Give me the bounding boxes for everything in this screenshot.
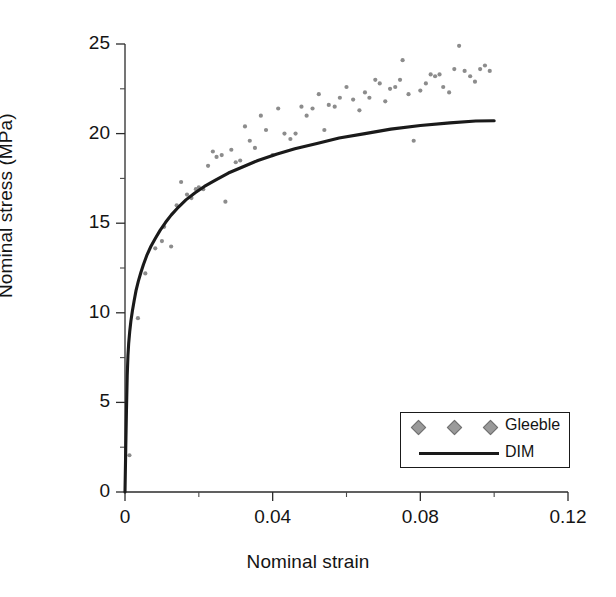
x-axis-title: Nominal strain [0,551,616,573]
legend-label-gleeble: Gleeble [505,416,560,434]
y-tick-label: 0 [50,480,110,502]
diamond-icon [411,420,427,436]
y-tick-label: 25 [50,32,110,54]
legend-label-dim: DIM [505,443,534,461]
chart-legend: Gleeble DIM [400,412,570,468]
stress-strain-chart: Nominal stress (MPa) Nominal strain 0510… [0,0,616,597]
x-tick-label: 0.12 [523,506,613,528]
line-icon [419,452,499,455]
y-tick-label: 10 [50,301,110,323]
y-axis-title: Nominal stress (MPa) [0,113,17,298]
y-tick-label: 5 [50,390,110,412]
legend-diamond-markers [409,413,503,440]
y-tick-label: 15 [50,211,110,233]
x-tick-label: 0.08 [375,506,465,528]
diamond-icon [483,420,499,436]
legend-entry-gleeble: Gleeble [401,413,569,440]
legend-line-sample [409,440,503,467]
y-tick-label: 20 [50,122,110,144]
diamond-icon [447,420,463,436]
legend-entry-dim: DIM [401,440,569,467]
x-tick-label: 0 [80,506,170,528]
x-tick-label: 0.04 [228,506,318,528]
